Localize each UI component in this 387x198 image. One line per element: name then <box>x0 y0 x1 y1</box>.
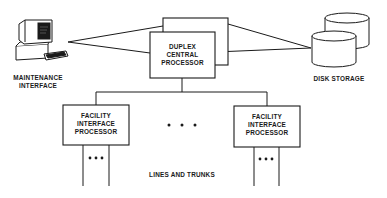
fip-right-label-line-1: FACILITY <box>252 113 283 120</box>
connector-cpu-b-to-disk <box>215 48 311 52</box>
facility-interface-processor-right: FACILITY INTERFACE PROCESSOR <box>234 106 300 186</box>
system-architecture-diagram: DUPLEX CENTRAL PROCESSOR FACILITY INTERF… <box>0 0 387 198</box>
connector-cpu-a-to-disk <box>228 24 311 48</box>
connector-maintenance-to-cpu-b <box>68 42 150 53</box>
more-fips-ellipsis <box>168 124 197 127</box>
disk-storage-label: DISK STORAGE <box>314 75 365 82</box>
maintenance-interface-label-line-1: MAINTENANCE <box>13 74 63 81</box>
fip-left-label-line-3: PROCESSOR <box>75 128 118 135</box>
fip-left-label-line-2: INTERFACE <box>77 120 116 127</box>
duplex-central-processor: DUPLEX CENTRAL PROCESSOR <box>150 18 228 78</box>
maintenance-interface-label-line-2: INTERFACE <box>19 82 58 89</box>
cpu-label-line-2: CENTRAL <box>167 51 199 58</box>
fip-left-label-line-1: FACILITY <box>81 112 112 119</box>
disk-storage-icon <box>312 13 369 67</box>
cpu-label-line-3: PROCESSOR <box>161 59 204 66</box>
fip-right-label-line-3: PROCESSOR <box>246 129 289 136</box>
cpu-label-line-1: DUPLEX <box>169 43 197 50</box>
fip-right-lines-ellipsis <box>259 158 274 161</box>
fip-right-label-line-2: INTERFACE <box>248 121 287 128</box>
computer-terminal-icon <box>16 20 68 60</box>
facility-interface-processor-left: FACILITY INTERFACE PROCESSOR <box>63 105 129 186</box>
lines-and-trunks-label: LINES AND TRUNKS <box>149 171 215 178</box>
connector-maintenance-to-cpu-a <box>68 26 163 42</box>
fip-left-lines-ellipsis <box>89 157 104 160</box>
